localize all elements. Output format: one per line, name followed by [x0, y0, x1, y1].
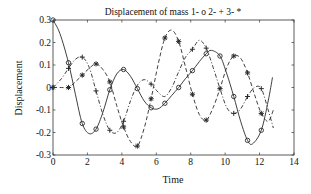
star-marker — [149, 96, 154, 101]
x-tick-label: 2 — [85, 157, 90, 167]
x-tick-label: 6 — [154, 157, 159, 167]
y-tick-label: 0.3 — [39, 15, 51, 25]
star-marker — [107, 79, 112, 84]
x-tick-label: 14 — [289, 157, 299, 167]
chart-title: Displacement of mass 1- o 2- + 3- * — [105, 7, 242, 17]
star-marker — [231, 53, 236, 58]
y-tick-label: 0.1 — [39, 60, 51, 70]
y-tick-label: -0.3 — [36, 150, 51, 160]
x-tick-label: 4 — [119, 157, 124, 167]
star-marker — [162, 35, 167, 40]
star-marker — [66, 85, 71, 90]
star-marker — [80, 73, 85, 78]
y-tick-label: 0.2 — [39, 38, 51, 48]
star-marker — [176, 39, 181, 44]
y-tick-label: 0 — [46, 83, 51, 93]
star-marker — [93, 61, 98, 66]
y-tick-label: -0.1 — [36, 105, 51, 115]
star-marker — [190, 92, 195, 97]
x-tick-label: 12 — [255, 157, 265, 167]
x-tick-label: 8 — [188, 157, 193, 167]
y-tick-label: -0.2 — [36, 128, 51, 138]
star-marker — [259, 111, 264, 116]
plot-frame — [53, 20, 294, 155]
x-tick-label: 0 — [51, 157, 56, 167]
star-marker — [135, 143, 140, 148]
star-marker — [217, 86, 222, 91]
star-marker — [121, 124, 126, 129]
plot-area — [50, 18, 294, 155]
displacement-chart: Displacement of mass 1- o 2- + 3- * 0246… — [0, 0, 311, 194]
x-tick-label: 10 — [220, 157, 230, 167]
star-marker — [204, 118, 209, 123]
star-marker — [245, 70, 250, 75]
x-axis-label: Time — [163, 174, 184, 185]
y-axis-label: Displacement — [13, 60, 24, 115]
